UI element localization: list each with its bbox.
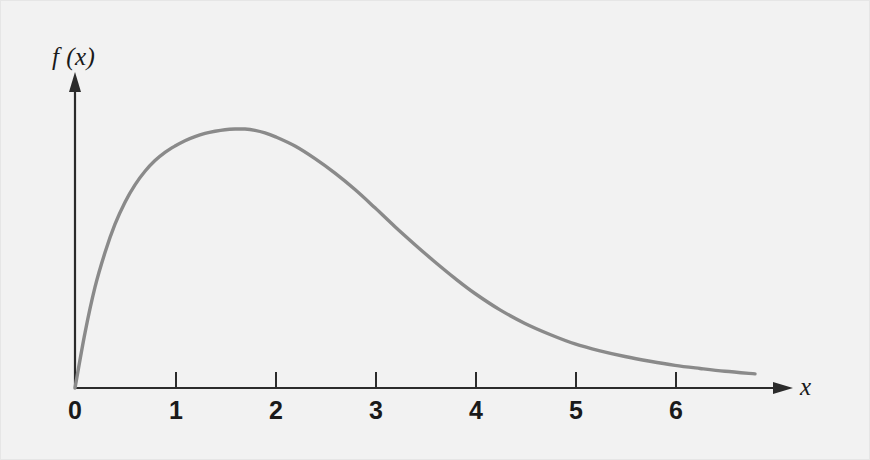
y-axis-title: f (x) (52, 44, 95, 69)
x-axis-ticks (75, 372, 676, 388)
x-tick-label-2: 2 (269, 398, 283, 423)
x-tick-label-1: 1 (169, 398, 183, 423)
x-tick-label-0: 0 (68, 398, 82, 423)
x-tick-label-4: 4 (469, 398, 483, 423)
x-tick-label-3: 3 (369, 398, 383, 423)
x-tick-label-6: 6 (669, 398, 683, 423)
chart-figure: 0 1 2 3 4 5 6 f (x) x (0, 0, 870, 460)
density-curve (75, 129, 755, 388)
plot-canvas (0, 0, 870, 460)
x-tick-label-5: 5 (569, 398, 583, 423)
y-axis-arrow-icon (69, 72, 81, 92)
x-axis-title: x (800, 374, 811, 399)
x-axis-arrow-icon (773, 382, 793, 394)
